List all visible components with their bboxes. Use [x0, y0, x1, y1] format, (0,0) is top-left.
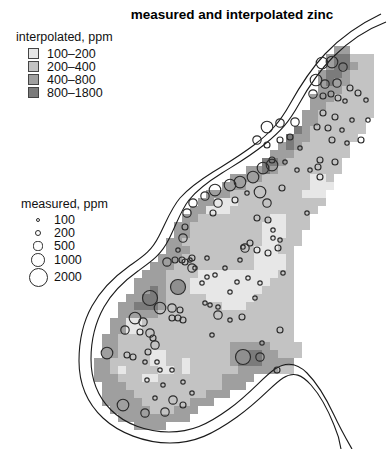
- raster-cell: [174, 246, 182, 254]
- raster-cell: [278, 342, 286, 350]
- raster-cell: [190, 350, 198, 358]
- raster-cell: [246, 230, 254, 238]
- raster-cell: [294, 190, 302, 198]
- measured-point: [171, 280, 186, 295]
- raster-cell: [254, 262, 262, 270]
- raster-cell: [278, 150, 286, 158]
- raster-cell: [166, 398, 174, 406]
- raster-cell: [198, 342, 206, 350]
- raster-cell: [214, 230, 222, 238]
- raster-cell: [366, 102, 374, 110]
- raster-cell: [214, 390, 222, 398]
- raster-cell: [198, 262, 206, 270]
- raster-cell: [214, 350, 222, 358]
- raster-cell: [318, 134, 326, 142]
- raster-cell: [198, 318, 206, 326]
- raster-cell: [206, 214, 214, 222]
- raster-cell: [190, 406, 198, 414]
- raster-cell: [358, 70, 366, 78]
- raster-cell: [102, 366, 110, 374]
- interpolated-raster: [94, 46, 374, 430]
- raster-cell: [198, 214, 206, 222]
- raster-cell: [230, 326, 238, 334]
- raster-cell: [286, 246, 294, 254]
- raster-cell: [142, 278, 150, 286]
- raster-cell: [182, 366, 190, 374]
- raster-cell: [166, 326, 174, 334]
- size-value-label: 100: [54, 214, 75, 226]
- raster-cell: [286, 198, 294, 206]
- raster-cell: [206, 350, 214, 358]
- raster-cell: [246, 214, 254, 222]
- raster-cell: [118, 366, 126, 374]
- raster-cell: [214, 294, 222, 302]
- raster-cell: [190, 358, 198, 366]
- raster-cell: [294, 206, 302, 214]
- raster-cell: [158, 294, 166, 302]
- raster-cell: [294, 134, 302, 142]
- raster-cell: [286, 166, 294, 174]
- raster-cell: [142, 366, 150, 374]
- raster-cell: [174, 334, 182, 342]
- raster-cell: [118, 318, 126, 326]
- raster-cell: [286, 278, 294, 286]
- raster-cell: [230, 206, 238, 214]
- size-circle-box: [25, 253, 51, 267]
- raster-cell: [246, 302, 254, 310]
- raster-cell: [190, 294, 198, 302]
- raster-cell: [198, 350, 206, 358]
- raster-cell: [334, 142, 342, 150]
- raster-cell: [318, 70, 326, 78]
- raster-cell: [222, 238, 230, 246]
- raster-cell: [110, 326, 118, 334]
- raster-cell: [270, 318, 278, 326]
- raster-cell: [182, 406, 190, 414]
- raster-cell: [262, 318, 270, 326]
- raster-cell: [222, 278, 230, 286]
- raster-cell: [118, 390, 126, 398]
- raster-cell: [230, 214, 238, 222]
- raster-cell: [326, 70, 334, 78]
- raster-cell: [246, 286, 254, 294]
- raster-cell: [246, 166, 254, 174]
- raster-cell: [222, 302, 230, 310]
- interpolated-legend-row: 100–200: [28, 47, 113, 60]
- raster-cell: [214, 374, 222, 382]
- raster-cell: [230, 278, 238, 286]
- raster-cell: [310, 142, 318, 150]
- raster-cell: [158, 350, 166, 358]
- raster-cell: [174, 294, 182, 302]
- raster-cell: [182, 350, 190, 358]
- raster-cell: [286, 262, 294, 270]
- raster-cell: [126, 406, 134, 414]
- raster-cell: [214, 342, 222, 350]
- class-swatch-icon: [28, 87, 39, 98]
- raster-cell: [246, 374, 254, 382]
- raster-cell: [198, 238, 206, 246]
- raster-cell: [222, 294, 230, 302]
- raster-cell: [254, 254, 262, 262]
- measured-legend-row: 100: [25, 214, 108, 226]
- raster-cell: [254, 310, 262, 318]
- raster-cell: [262, 174, 270, 182]
- raster-cell: [158, 374, 166, 382]
- raster-cell: [182, 294, 190, 302]
- size-circle-icon: [33, 241, 42, 250]
- size-value-label: 1000: [54, 254, 82, 266]
- raster-cell: [166, 318, 174, 326]
- raster-cell: [246, 334, 254, 342]
- raster-cell: [198, 390, 206, 398]
- measured-legend-row: 200: [25, 227, 108, 239]
- raster-cell: [366, 110, 374, 118]
- raster-cell: [158, 270, 166, 278]
- raster-cell: [94, 374, 102, 382]
- raster-cell: [158, 406, 166, 414]
- raster-cell: [238, 382, 246, 390]
- raster-cell: [230, 334, 238, 342]
- raster-cell: [110, 366, 118, 374]
- raster-cell: [246, 342, 254, 350]
- measured-point: [261, 121, 273, 133]
- raster-cell: [230, 222, 238, 230]
- raster-cell: [262, 262, 270, 270]
- raster-cell: [278, 302, 286, 310]
